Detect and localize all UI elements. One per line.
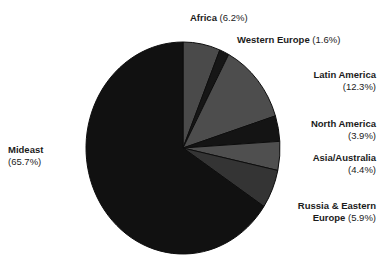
slice-label-russia-eastern-europe: Russia & Eastern Europe (5.9%) <box>298 200 376 223</box>
slice-label-russia-eastern-europe-name-line2: Europe <box>313 212 346 223</box>
slice-label-north-america-name: North America <box>311 118 376 130</box>
slice-label-russia-eastern-europe-name-line1: Russia & Eastern <box>298 200 376 212</box>
slice-label-africa-name: Africa <box>190 12 217 23</box>
slice-label-asia-australia-name: Asia/Australia <box>313 152 376 164</box>
slice-label-latin-america: Latin America (12.3%) <box>314 69 376 92</box>
pie-slice-group <box>86 42 280 254</box>
slice-label-mideast-percent: (65.7%) <box>8 156 43 168</box>
slice-label-western-europe-name: Western Europe <box>237 34 310 45</box>
slice-label-russia-eastern-europe-percent: (5.9%) <box>348 212 376 223</box>
slice-label-latin-america-name: Latin America <box>314 69 376 81</box>
slice-label-asia-australia: Asia/Australia (4.4%) <box>313 152 376 175</box>
slice-label-africa: Africa (6.2%) <box>190 12 248 24</box>
slice-label-western-europe: Western Europe (1.6%) <box>237 34 340 46</box>
slice-label-latin-america-percent: (12.3%) <box>314 81 376 93</box>
slice-label-africa-percent: (6.2%) <box>220 12 248 23</box>
slice-label-russia-eastern-europe-line2: Europe (5.9%) <box>298 212 376 224</box>
slice-label-asia-australia-percent: (4.4%) <box>313 164 376 176</box>
slice-label-mideast-name: Mideast <box>8 144 43 156</box>
slice-label-western-europe-percent: (1.6%) <box>312 34 340 45</box>
pie-chart-figure: Africa (6.2%) Western Europe (1.6%) Lati… <box>0 0 382 269</box>
slice-label-north-america-percent: (3.9%) <box>311 130 376 142</box>
slice-label-north-america: North America (3.9%) <box>311 118 376 141</box>
slice-label-mideast: Mideast (65.7%) <box>8 144 43 167</box>
